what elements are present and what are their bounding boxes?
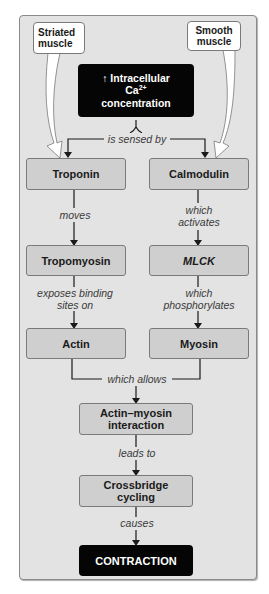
edge-which-phosphorylates: which phosphorylates — [159, 287, 239, 311]
myosin-node: Myosin — [149, 328, 249, 359]
actin-node: Actin — [26, 328, 126, 359]
trigger-line3: concentration — [101, 97, 170, 110]
actin-myosin-interaction-node: Actin–myosin interaction — [79, 403, 193, 435]
edge-causes: causes — [114, 517, 160, 529]
edge-which-allows: which allows — [102, 373, 172, 385]
contraction-node: CONTRACTION — [79, 545, 193, 576]
trigger-line2: Ca2+ — [125, 84, 146, 97]
edge-moves: moves — [54, 209, 96, 221]
mlck-node: MLCK — [149, 245, 249, 276]
up-arrow-icon: ↑ — [102, 72, 107, 84]
calcium-concentration-node: ↑ Intracellular Ca2+ concentration — [78, 64, 194, 117]
edge-is-sensed-by: is sensed by — [104, 133, 170, 145]
smooth-muscle-label: Smooth muscle — [187, 21, 241, 51]
tropomyosin-node: Tropomyosin — [26, 245, 126, 276]
edge-which-activates: which activates — [172, 204, 226, 228]
troponin-node: Troponin — [26, 158, 126, 190]
striated-muscle-label: Striated muscle — [33, 22, 85, 54]
trigger-line1: ↑ Intracellular — [102, 72, 170, 85]
smooth-muscle-text: Smooth muscle — [192, 25, 236, 47]
striated-muscle-text: Striated muscle — [38, 27, 80, 49]
crossbridge-cycling-node: Crossbridge cycling — [79, 475, 193, 507]
edge-exposes-binding-sites: exposes binding sites on — [30, 287, 120, 311]
edge-leads-to: leads to — [114, 447, 160, 459]
calmodulin-node: Calmodulin — [149, 158, 249, 190]
